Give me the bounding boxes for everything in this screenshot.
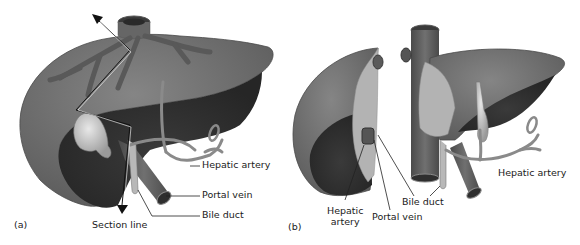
- ivc-bottom-b: [411, 174, 439, 182]
- bile-duct-b: [440, 140, 446, 189]
- label-hepatic-artery-a: Hepatic artery: [202, 160, 270, 171]
- label-hepatic-artery-b-left-line2: artery: [327, 217, 363, 228]
- panel-a: [20, 14, 273, 216]
- label-hepatic-artery-b-left: Hepatic artery: [327, 206, 363, 228]
- panel-b-tag: (b): [288, 222, 301, 233]
- label-hepatic-artery-b-right: Hepatic artery: [498, 168, 566, 179]
- hepatic-artery-loop-b: [526, 116, 539, 134]
- liver-anatomy-diagram: [0, 0, 580, 245]
- hilum-vessels-left: [362, 128, 374, 144]
- ivc-lumen: [123, 19, 145, 26]
- panel-b: [293, 25, 565, 210]
- label-portal-vein-b: Portal vein: [372, 212, 422, 223]
- panel-a-tag: (a): [14, 220, 27, 231]
- label-section-line: Section line: [92, 220, 147, 231]
- section-line-arrow-down-icon: [117, 205, 128, 214]
- label-bile-duct-b: Bile duct: [402, 197, 444, 208]
- ivc-stub-left: [373, 55, 383, 69]
- ivc-side-stub: [401, 48, 411, 62]
- label-bile-duct-a: Bile duct: [202, 210, 244, 221]
- label-portal-vein-a: Portal vein: [202, 190, 252, 201]
